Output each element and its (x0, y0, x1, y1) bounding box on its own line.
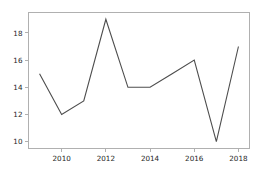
x-tick-label: 2016 (185, 154, 204, 163)
y-tick-label: 10 (13, 137, 23, 146)
y-tick-label: 16 (13, 56, 23, 65)
x-tick-label: 2012 (97, 154, 115, 163)
plot-area-background (29, 13, 250, 149)
x-tick-label: 2010 (53, 154, 72, 163)
x-tick-label: 2018 (229, 154, 248, 163)
y-tick-label: 18 (13, 29, 23, 38)
y-tick-label: 12 (13, 110, 22, 119)
line-chart: 20102012201420162018 1012141618 (0, 0, 264, 187)
y-tick-label: 14 (13, 83, 23, 92)
x-tick-label: 2014 (141, 154, 160, 163)
chart-figure: 20102012201420162018 1012141618 (0, 0, 264, 187)
